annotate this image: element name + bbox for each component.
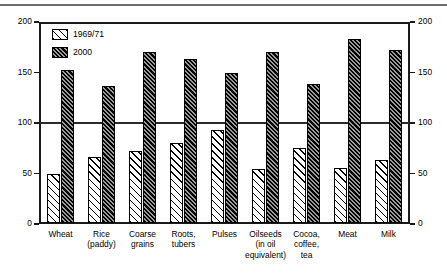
y-tick-l-50 bbox=[34, 173, 39, 174]
y-tick-r-100 bbox=[410, 122, 415, 123]
y-tick-r-0 bbox=[410, 223, 415, 224]
legend-swatch-1969-71 bbox=[52, 29, 68, 40]
legend-swatch-2000 bbox=[52, 47, 68, 58]
x-axis-label: Milk bbox=[345, 229, 431, 239]
y-axis-label-l-150: 150 bbox=[6, 68, 32, 76]
bar-group bbox=[327, 22, 368, 224]
bar-series1 bbox=[334, 168, 346, 223]
y-tick-r-150 bbox=[410, 72, 415, 73]
y-axis-label-r-200: 200 bbox=[418, 17, 444, 25]
bar-series2 bbox=[266, 52, 278, 223]
bar-series1 bbox=[211, 130, 223, 223]
bar-series2 bbox=[389, 50, 401, 223]
bar-series2 bbox=[307, 84, 319, 222]
bar-series1 bbox=[375, 160, 387, 223]
bar-series1 bbox=[88, 157, 100, 223]
y-axis-label-l-100: 100 bbox=[6, 118, 32, 126]
bar-series2 bbox=[61, 70, 73, 223]
grouped-bar-chart: 1969/71 2000 005050100100150150200200Whe… bbox=[0, 0, 447, 276]
bar-group bbox=[163, 22, 204, 224]
bar-series2 bbox=[225, 73, 237, 222]
y-tick-l-0 bbox=[34, 223, 39, 224]
bar-series1 bbox=[47, 174, 59, 222]
y-tick-l-100 bbox=[34, 122, 39, 123]
bar-group bbox=[368, 22, 409, 224]
bar-series1 bbox=[129, 151, 141, 223]
y-axis-label-r-0: 0 bbox=[418, 219, 444, 227]
bar-series1 bbox=[170, 143, 182, 223]
plot-area bbox=[40, 22, 409, 224]
y-axis-label-r-150: 150 bbox=[418, 68, 444, 76]
y-axis-label-l-50: 50 bbox=[6, 169, 32, 177]
legend-label-1969-71: 1969/71 bbox=[73, 29, 104, 40]
y-tick-l-150 bbox=[34, 72, 39, 73]
bar-group bbox=[122, 22, 163, 224]
bar-series1 bbox=[293, 148, 305, 223]
y-axis-label-l-200: 200 bbox=[6, 17, 32, 25]
bar-series2 bbox=[102, 86, 114, 222]
bar-group bbox=[204, 22, 245, 224]
bar-series2 bbox=[348, 39, 360, 223]
y-axis-label-r-50: 50 bbox=[418, 169, 444, 177]
y-tick-r-200 bbox=[410, 21, 415, 22]
y-axis-label-l-0: 0 bbox=[6, 219, 32, 227]
bar-series2 bbox=[143, 52, 155, 223]
bar-series1 bbox=[252, 169, 264, 223]
y-tick-r-50 bbox=[410, 173, 415, 174]
bar-group bbox=[245, 22, 286, 224]
bar-group bbox=[286, 22, 327, 224]
y-axis-label-r-100: 100 bbox=[418, 118, 444, 126]
bar-series2 bbox=[184, 59, 196, 223]
legend-label-2000: 2000 bbox=[73, 47, 92, 58]
y-tick-l-200 bbox=[34, 21, 39, 22]
